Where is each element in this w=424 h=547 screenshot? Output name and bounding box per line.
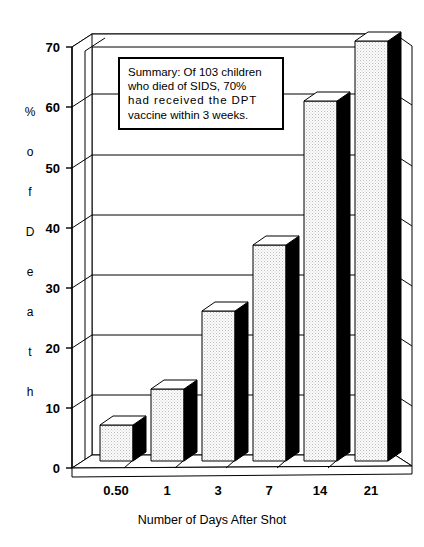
y-axis-title-char-1: o — [18, 132, 42, 172]
bar-3 — [253, 236, 299, 461]
y-axis-title: % o f D e a t h — [18, 92, 42, 412]
summary-line-2: had received the DPT — [128, 93, 275, 107]
x-tick-label-3: 7 — [244, 484, 294, 498]
y-axis-title-char-2: f — [18, 172, 42, 212]
y-axis-title-char-6: t — [18, 332, 42, 372]
bar-4 — [304, 92, 350, 461]
summary-line-3: vaccine within 3 weeks. — [128, 108, 275, 122]
y-tick-label-70: 70 — [30, 41, 60, 54]
x-tick-label-1: 1 — [142, 484, 192, 498]
bar-5 — [355, 32, 401, 461]
x-tick-label-0: 0.50 — [91, 484, 141, 498]
bar-2 — [202, 302, 248, 461]
y-axis-title-char-0: % — [18, 92, 42, 132]
bar-chart: 70 60 50 40 30 20 10 0 % o f D e a t h 0… — [0, 0, 424, 547]
bar-1 — [151, 380, 197, 461]
summary-line-0: Summary: Of 103 children — [128, 65, 275, 79]
y-axis-title-char-3: D — [18, 212, 42, 252]
summary-annotation-box: Summary: Of 103 children who died of SID… — [118, 57, 284, 130]
bar-0 — [100, 416, 146, 461]
y-axis-title-char-5: a — [18, 292, 42, 332]
x-tick-label-2: 3 — [193, 484, 243, 498]
y-axis-title-char-4: e — [18, 252, 42, 292]
y-axis-title-char-7: h — [18, 372, 42, 412]
x-axis-title: Number of Days After Shot — [0, 513, 424, 528]
summary-line-1: who died of SIDS, 70% — [128, 79, 275, 93]
x-tick-label-4: 14 — [295, 484, 345, 498]
x-tick-label-5: 21 — [346, 484, 396, 498]
y-tick-label-0: 0 — [30, 462, 60, 475]
y-axis — [66, 47, 72, 468]
